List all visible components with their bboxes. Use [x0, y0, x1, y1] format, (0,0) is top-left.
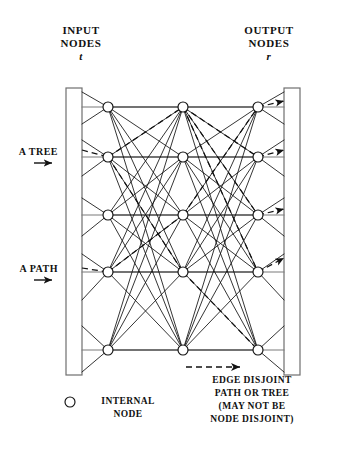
edge-disjoint-legend-text: EDGE DISJOINT PATH OR TREE (MAY NOT BE N… [186, 374, 318, 426]
circle-icon [65, 397, 75, 407]
a-path-label: A PATH [0, 263, 58, 274]
internal-node-legend-line2: NODE [82, 408, 174, 421]
internal-node[interactable] [253, 102, 263, 112]
edge-disjoint-legend-line1: EDGE DISJOINT [186, 374, 318, 387]
edge-disjoint-overlay [82, 101, 284, 350]
input-label-line1: INPUT [26, 24, 136, 37]
input-rail [66, 88, 82, 375]
output-label-line1: OUTPUT [214, 24, 324, 37]
internal-node-legend-line1: INTERNAL [82, 395, 174, 408]
output-label-line2: NODES [214, 37, 324, 50]
internal-node[interactable] [178, 345, 188, 355]
internal-node[interactable] [103, 345, 113, 355]
internal-node[interactable] [253, 152, 263, 162]
internal-node[interactable] [253, 267, 263, 277]
diagram-canvas: INPUT NODES t OUTPUT NODES r A TREE A PA… [0, 0, 342, 460]
edge-disjoint-legend-line3: (MAY NOT BE [186, 400, 318, 413]
input-nodes-label: INPUT NODES t [26, 24, 136, 63]
output-symbol: r [214, 50, 324, 63]
internal-node[interactable] [178, 102, 188, 112]
input-label-line2: NODES [26, 37, 136, 50]
internal-node[interactable] [178, 152, 188, 162]
edge-mesh [82, 92, 284, 372]
edge-disjoint-legend-line4: NODE DISJOINT) [186, 413, 318, 426]
internal-node[interactable] [178, 210, 188, 220]
io-rails [66, 88, 300, 375]
output-rail [284, 88, 300, 375]
a-tree-label: A TREE [0, 146, 58, 157]
internal-node[interactable] [103, 152, 113, 162]
internal-node[interactable] [253, 345, 263, 355]
internal-node[interactable] [103, 102, 113, 112]
internal-node-group [103, 102, 263, 355]
internal-node[interactable] [103, 210, 113, 220]
internal-node[interactable] [178, 267, 188, 277]
output-nodes-label: OUTPUT NODES r [214, 24, 324, 63]
edge-disjoint-legend-line2: PATH OR TREE [186, 387, 318, 400]
internal-node[interactable] [253, 210, 263, 220]
internal-node[interactable] [103, 267, 113, 277]
input-symbol: t [26, 50, 136, 63]
internal-node-legend-text: INTERNAL NODE [82, 395, 174, 421]
